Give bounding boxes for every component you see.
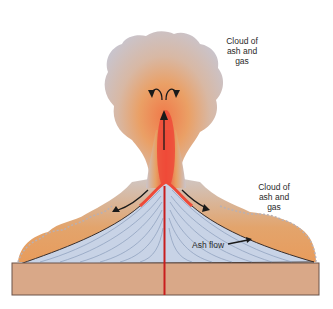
label-line: gas bbox=[246, 202, 302, 212]
label-line: Cloud of bbox=[246, 182, 302, 192]
label-line: Cloud of bbox=[214, 36, 270, 46]
label-side-cloud: Cloud of ash and gas bbox=[246, 182, 302, 212]
label-line: ash and bbox=[246, 192, 302, 202]
label-ash-flow: Ash flow bbox=[192, 240, 232, 250]
volcano-diagram bbox=[0, 0, 333, 309]
label-line: ash and bbox=[214, 46, 270, 56]
label-upper-cloud: Cloud of ash and gas bbox=[214, 36, 270, 66]
label-line: gas bbox=[214, 56, 270, 66]
